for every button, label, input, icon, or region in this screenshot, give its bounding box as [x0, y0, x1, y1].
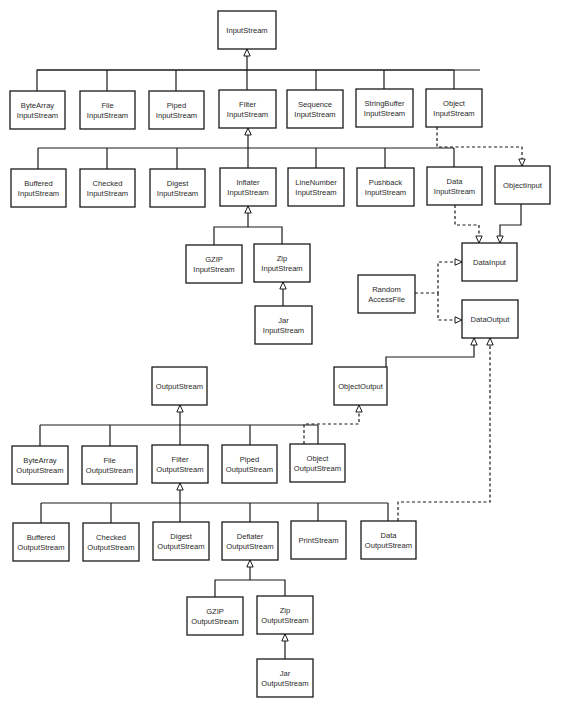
edge-inflater-subclasses — [214, 227, 282, 245]
class-box-filter-input-stream: FilterInputStream — [219, 90, 276, 128]
class-box-line-number-input-stream: LineNumberInputStream — [288, 168, 344, 206]
hollow-triangle-arrow-icon — [280, 282, 286, 289]
class-name-label: InputStream — [227, 110, 268, 119]
class-name-label: InputStream — [294, 110, 335, 119]
class-name-label: OutputStream — [261, 679, 308, 688]
edge-objectoutput-extends-dataoutput — [386, 338, 474, 367]
class-name-label: File — [103, 456, 115, 465]
class-name-label: Object — [307, 454, 330, 463]
class-name-label: GZIP — [206, 607, 224, 616]
class-box-checked-output-stream: CheckedOutputStream — [83, 523, 139, 561]
class-name-label: ObjectOutput — [338, 382, 384, 391]
class-name-label: Digest — [170, 532, 192, 541]
class-name-label: OutputStream — [156, 382, 203, 391]
class-name-label: InputStream — [193, 265, 234, 274]
nodes-layer: InputStreamByteArrayInputStreamFileInput… — [10, 11, 550, 697]
class-box-file-output-stream: FileOutputStream — [82, 446, 137, 484]
class-name-label: DataOutput — [471, 315, 511, 324]
class-name-label: OutputStream — [86, 466, 133, 475]
hollow-triangle-arrow-icon — [177, 405, 183, 412]
class-box-zip-input-stream: ZipInputStream — [254, 244, 310, 282]
class-name-label: Buffered — [24, 179, 53, 188]
class-name-label: OutputStream — [17, 543, 64, 552]
class-name-label: Object — [443, 99, 466, 108]
edge-objectinputstream-implements-objectinput — [437, 127, 522, 166]
class-name-label: OutputStream — [294, 464, 341, 473]
hollow-triangle-arrow-icon — [245, 206, 251, 213]
class-box-inflater-input-stream: InflaterInputStream — [220, 168, 276, 206]
class-name-label: DataInput — [473, 258, 507, 267]
class-name-label: OutputStream — [156, 465, 203, 474]
class-box-data-input: DataInput — [462, 243, 517, 281]
class-box-file-input-stream: FileInputStream — [80, 91, 135, 129]
class-name-label: Filter — [172, 455, 189, 464]
class-box-random-access-file: RandomAccessFile — [358, 275, 415, 313]
hollow-triangle-arrow-icon — [455, 259, 462, 265]
class-name-label: Zip — [280, 606, 291, 615]
edge-inputstream-subclasses — [37, 70, 480, 91]
edge-randomaccessfile-implements-dataoutput — [438, 293, 462, 320]
class-box-pushback-input-stream: PushbackInputStream — [357, 168, 414, 206]
class-name-label: StringBuffer — [365, 99, 405, 108]
class-name-label: Sequence — [298, 100, 332, 109]
class-box-byte-array-input-stream: ByteArrayInputStream — [10, 91, 65, 129]
class-name-label: OutputStream — [157, 542, 204, 551]
class-name-label: InputStream — [364, 109, 405, 118]
hollow-triangle-arrow-icon — [471, 338, 477, 345]
class-name-label: InputStream — [365, 188, 406, 197]
edge-dataoutputstream-implements-dataoutput — [398, 338, 490, 521]
class-name-label: OutputStream — [16, 466, 63, 475]
class-name-label: Filter — [239, 100, 256, 109]
class-name-label: Buffered — [27, 533, 56, 542]
class-name-label: InputStream — [227, 188, 268, 197]
class-box-data-output-stream: DataOutputStream — [361, 521, 416, 559]
class-name-label: InputStream — [433, 109, 474, 118]
class-name-label: Checked — [96, 533, 126, 542]
class-box-digest-input-stream: DigestInputStream — [150, 169, 205, 207]
class-name-label: OutputStream — [365, 541, 412, 550]
edge-deflater-subclasses — [215, 580, 285, 597]
class-box-piped-input-stream: PipedInputStream — [149, 91, 204, 129]
hollow-triangle-arrow-icon — [497, 236, 503, 243]
class-box-jar-output-stream: JarOutputStream — [257, 659, 313, 697]
class-name-label: OutputStream — [261, 616, 308, 625]
class-name-label: Random — [372, 285, 401, 294]
hollow-triangle-arrow-icon — [245, 128, 251, 135]
class-name-label: Piped — [240, 455, 259, 464]
class-name-label: InputStream — [434, 187, 475, 196]
class-name-label: OutputStream — [87, 543, 134, 552]
class-name-label: Jar — [278, 316, 289, 325]
class-name-label: ByteArray — [23, 456, 57, 465]
class-name-label: InputStream — [156, 111, 197, 120]
class-box-zip-output-stream: ZipOutputStream — [257, 596, 313, 634]
class-name-label: Data — [446, 177, 463, 186]
class-name-label: OutputStream — [191, 617, 238, 626]
class-name-label: Digest — [167, 179, 189, 188]
class-name-label: Jar — [280, 669, 291, 678]
class-name-label: Inflater — [236, 178, 260, 187]
edge-objectoutputstream-implements-objectoutput — [304, 405, 359, 444]
class-name-label: AccessFile — [368, 295, 405, 304]
class-name-label: InputStream — [226, 26, 267, 35]
class-name-label: InputStream — [17, 111, 58, 120]
class-name-label: InputStream — [87, 189, 128, 198]
class-box-data-input-stream: DataInputStream — [427, 167, 482, 205]
class-box-deflater-output-stream: DeflaterOutputStream — [222, 522, 278, 560]
class-box-gzip-input-stream: GZIPInputStream — [186, 245, 242, 283]
class-box-object-output-stream: ObjectOutputStream — [290, 444, 345, 482]
class-box-filter-output-stream: FilterOutputStream — [152, 445, 208, 483]
class-box-object-output: ObjectOutput — [334, 367, 387, 405]
class-name-label: Data — [380, 531, 397, 540]
class-box-digest-output-stream: DigestOutputStream — [153, 522, 209, 560]
class-box-byte-array-output-stream: ByteArrayOutputStream — [12, 446, 68, 484]
hollow-triangle-arrow-icon — [244, 49, 250, 56]
class-name-label: InputStream — [157, 189, 198, 198]
class-box-piped-output-stream: PipedOutputStream — [222, 445, 277, 483]
hollow-triangle-arrow-icon — [177, 483, 183, 490]
class-name-label: LineNumber — [295, 178, 337, 187]
class-box-print-stream: PrintStream — [291, 521, 346, 559]
class-box-string-buffer-input-stream: StringBufferInputStream — [356, 89, 413, 127]
java-io-class-hierarchy-diagram: InputStreamByteArrayInputStreamFileInput… — [0, 0, 563, 706]
hollow-triangle-arrow-icon — [519, 159, 525, 166]
class-name-label: Pushback — [369, 178, 403, 187]
